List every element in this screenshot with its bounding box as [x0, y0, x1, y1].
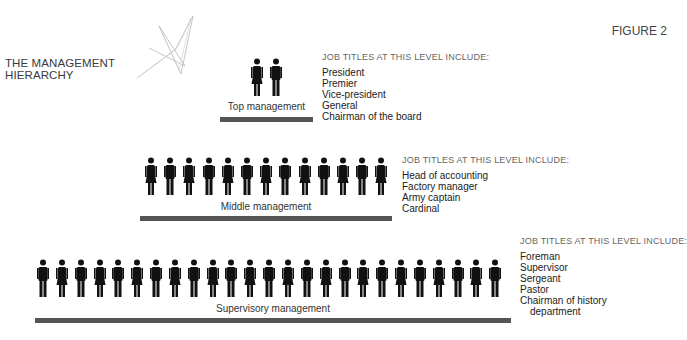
- job-title-item: Pastor: [520, 284, 687, 295]
- diagram-title: THE MANAGEMENT HIERARCHY: [5, 57, 115, 81]
- job-title-item: Army captain: [402, 192, 569, 203]
- male-figure-icon: [414, 259, 426, 297]
- top-management-titles: JOB TITLES AT THIS LEVEL INCLUDE: Presid…: [322, 52, 489, 122]
- job-title-item: Head of accounting: [402, 170, 569, 181]
- figure-number: FIGURE 2: [612, 24, 667, 38]
- supervisory-management-label: Supervisory management: [35, 303, 511, 314]
- female-figure-icon: [56, 259, 68, 297]
- female-figure-icon: [251, 58, 263, 96]
- male-figure-icon: [37, 259, 49, 297]
- male-figure-icon: [489, 259, 501, 297]
- top-management-bar: [220, 117, 313, 122]
- male-figure-icon: [75, 259, 87, 297]
- female-figure-icon: [299, 157, 311, 195]
- female-figure-icon: [337, 157, 349, 195]
- female-figure-icon: [145, 157, 157, 195]
- female-figure-icon: [433, 259, 445, 297]
- job-title-item: Foreman: [520, 251, 687, 262]
- female-figure-icon: [94, 259, 106, 297]
- middle-management-bar: [140, 216, 392, 221]
- female-figure-icon: [260, 157, 272, 195]
- male-figure-icon: [203, 157, 215, 195]
- job-title-item: Chairman of the board: [322, 111, 489, 122]
- middle-management-label: Middle management: [140, 201, 392, 212]
- female-figure-icon: [244, 259, 256, 297]
- female-figure-icon: [395, 259, 407, 297]
- female-figure-icon: [375, 157, 387, 195]
- titles-header: JOB TITLES AT THIS LEVEL INCLUDE:: [520, 236, 687, 247]
- titles-header: JOB TITLES AT THIS LEVEL INCLUDE:: [402, 155, 569, 166]
- job-title-item: Chairman of history: [520, 295, 687, 306]
- male-figure-icon: [452, 259, 464, 297]
- middle-management-titles: JOB TITLES AT THIS LEVEL INCLUDE: Head o…: [402, 155, 569, 214]
- female-figure-icon: [207, 259, 219, 297]
- supervisory-management-people: [37, 259, 501, 297]
- supervisory-management-titles: JOB TITLES AT THIS LEVEL INCLUDE: Forema…: [520, 236, 687, 317]
- job-title-item: Cardinal: [402, 203, 569, 214]
- female-figure-icon: [470, 259, 482, 297]
- male-figure-icon: [301, 259, 313, 297]
- job-title-item: General: [322, 100, 489, 111]
- job-title-item: department: [520, 306, 687, 317]
- titles-header: JOB TITLES AT THIS LEVEL INCLUDE:: [322, 52, 489, 63]
- job-title-item: President: [322, 67, 489, 78]
- male-figure-icon: [241, 157, 253, 195]
- male-figure-icon: [356, 157, 368, 195]
- male-figure-icon: [339, 259, 351, 297]
- female-figure-icon: [222, 157, 234, 195]
- female-figure-icon: [183, 157, 195, 195]
- male-figure-icon: [279, 157, 291, 195]
- job-title-item: Supervisor: [520, 262, 687, 273]
- male-figure-icon: [112, 259, 124, 297]
- title-line-2: HIERARCHY: [5, 69, 115, 81]
- male-figure-icon: [263, 259, 275, 297]
- job-title-item: Premier: [322, 78, 489, 89]
- job-title-item: Factory manager: [402, 181, 569, 192]
- supervisory-management-bar: [35, 318, 511, 323]
- title-line-1: THE MANAGEMENT: [5, 57, 115, 69]
- job-title-item: Vice-president: [322, 89, 489, 100]
- male-figure-icon: [318, 157, 330, 195]
- male-figure-icon: [270, 58, 282, 96]
- job-title-item: Sergeant: [520, 273, 687, 284]
- female-figure-icon: [169, 259, 181, 297]
- decorative-scribble-icon: [135, 8, 195, 80]
- top-management-label: Top management: [220, 101, 313, 112]
- male-figure-icon: [150, 259, 162, 297]
- female-figure-icon: [320, 259, 332, 297]
- middle-management-people: [145, 157, 387, 195]
- female-figure-icon: [282, 259, 294, 297]
- male-figure-icon: [225, 259, 237, 297]
- male-figure-icon: [188, 259, 200, 297]
- male-figure-icon: [376, 259, 388, 297]
- female-figure-icon: [357, 259, 369, 297]
- top-management-people: [251, 58, 282, 96]
- male-figure-icon: [164, 157, 176, 195]
- female-figure-icon: [131, 259, 143, 297]
